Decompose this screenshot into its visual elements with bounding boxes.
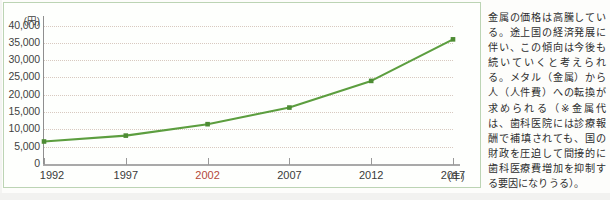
- page-bottom-edge: [0, 193, 610, 200]
- page-root: (円) 40,00035,00030,00025,00020,00015,000…: [0, 0, 610, 200]
- data-point-marker: [42, 139, 47, 144]
- chart-panel: (円) 40,00035,00030,00025,00020,00015,000…: [3, 2, 481, 188]
- data-point-marker: [287, 105, 292, 110]
- page-left-edge: [0, 0, 2, 200]
- commentary-text: 金属の価格は高騰している。途上国の経済発展に伴い、この傾向は今後も続いていくと考…: [488, 10, 606, 190]
- data-point-marker: [124, 133, 129, 138]
- data-point-marker: [369, 79, 374, 84]
- series-line: [44, 39, 453, 141]
- data-point-marker: [205, 122, 210, 127]
- data-point-marker: [451, 37, 456, 42]
- series-markers: [42, 37, 456, 144]
- line-series-plot: [4, 3, 482, 189]
- x-axis-unit-label: (年): [448, 169, 464, 183]
